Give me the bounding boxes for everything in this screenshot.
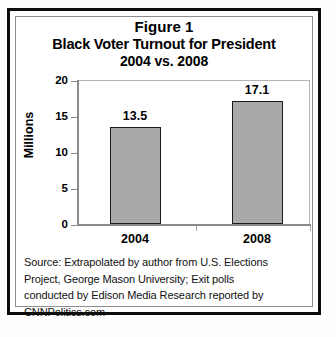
y-tick-label-5: 5 <box>44 183 68 195</box>
figure-container: Figure 1 Black Voter Turnout for Preside… <box>0 0 336 337</box>
y-tick-mark-20 <box>71 81 78 82</box>
source-note-line-3: conducted by Edison Media Research repor… <box>24 287 294 304</box>
y-tick-label-15: 15 <box>44 111 68 123</box>
source-note-line-4: CNNPolitics.com <box>24 304 294 321</box>
y-axis-label: Millions <box>22 95 36 175</box>
x-tick-label-2008: 2008 <box>222 233 292 246</box>
x-tick-mark-middle <box>196 226 197 231</box>
y-tick-mark-5 <box>71 189 78 190</box>
y-tick-mark-15 <box>71 117 78 118</box>
bar-2008[interactable] <box>232 101 283 224</box>
y-tick-label-10: 10 <box>44 147 68 159</box>
y-tick-label-0: 0 <box>44 219 68 231</box>
chart-title-subtitle: 2004 vs. 2008 <box>16 53 312 70</box>
x-tick-mark-right <box>310 226 311 231</box>
y-tick-mark-10 <box>71 153 78 154</box>
source-note-line-1: Source: Extrapolated by author from U.S.… <box>24 254 294 271</box>
x-tick-label-2004: 2004 <box>100 233 170 246</box>
y-tick-label-20: 20 <box>44 75 68 87</box>
figure-number: Figure 1 <box>16 18 312 36</box>
chart-title: Figure 1 Black Voter Turnout for Preside… <box>16 18 312 69</box>
source-note: Source: Extrapolated by author from U.S.… <box>24 254 294 321</box>
x-axis-line <box>77 224 311 226</box>
chart-title-main: Black Voter Turnout for President <box>16 36 312 53</box>
source-note-line-2: Project, George Mason University; Exit p… <box>24 271 294 288</box>
bar-value-2008: 17.1 <box>227 84 287 97</box>
y-tick-mark-0 <box>71 225 78 226</box>
bar-2004[interactable] <box>110 127 161 224</box>
bar-value-2004: 13.5 <box>105 110 165 123</box>
